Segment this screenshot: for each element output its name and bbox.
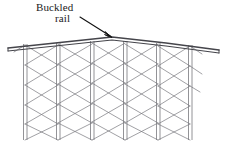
figure-canvas <box>0 0 226 153</box>
column-6 <box>189 45 193 140</box>
annotation-label-line-2: rail <box>55 13 70 25</box>
brace-outer-stubs <box>14 45 202 92</box>
column-2 <box>57 43 61 140</box>
column-5 <box>157 43 161 140</box>
buckled-rail-figure: Buckled rail <box>0 0 226 153</box>
brace-bay-3 <box>92 43 125 140</box>
lattice-trestle <box>14 43 202 140</box>
brace-bay-1 <box>25 45 58 140</box>
brace-bay-2 <box>58 44 92 140</box>
column-4 <box>124 41 128 140</box>
brace-bay-4 <box>125 44 158 140</box>
brace-bay-5 <box>158 46 190 140</box>
arrow-head-icon <box>105 32 113 38</box>
buckled-rail <box>8 37 219 53</box>
leader-line <box>80 17 112 38</box>
column-3 <box>91 41 95 140</box>
column-1 <box>24 44 28 140</box>
